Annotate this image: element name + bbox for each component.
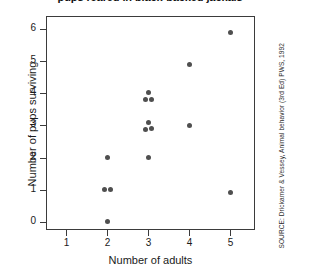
data-point bbox=[149, 126, 154, 131]
data-point bbox=[228, 30, 233, 35]
y-axis-title: Number of pups surviving bbox=[26, 29, 38, 219]
x-axis-tick bbox=[148, 230, 149, 236]
data-point bbox=[143, 97, 148, 102]
data-point bbox=[146, 120, 151, 125]
plot-area bbox=[46, 16, 255, 230]
y-axis-tick bbox=[40, 190, 46, 191]
y-axis-tick bbox=[40, 29, 46, 30]
x-axis-title: Number of adults bbox=[46, 254, 255, 266]
data-point bbox=[146, 155, 151, 160]
x-axis-tick bbox=[107, 230, 108, 236]
x-axis-tick bbox=[189, 230, 190, 236]
y-axis-tick bbox=[40, 222, 46, 223]
data-point bbox=[102, 187, 107, 192]
data-point bbox=[146, 90, 151, 95]
y-axis-tick bbox=[40, 125, 46, 126]
data-point bbox=[108, 187, 113, 192]
data-point bbox=[228, 190, 233, 195]
x-axis-tick bbox=[66, 230, 67, 236]
data-point bbox=[105, 219, 110, 224]
data-point bbox=[149, 97, 154, 102]
data-point bbox=[187, 62, 192, 67]
data-point bbox=[105, 155, 110, 160]
source-credit: SOURCE: Drickamer & Vessey, Animal behav… bbox=[278, 19, 285, 249]
x-axis-tick-label: 5 bbox=[220, 237, 240, 248]
x-axis-tick-label: 2 bbox=[97, 237, 117, 248]
y-axis-tick bbox=[40, 61, 46, 62]
x-axis-tick-label: 4 bbox=[179, 237, 199, 248]
data-point bbox=[187, 123, 192, 128]
x-axis-tick-label: 1 bbox=[56, 237, 76, 248]
scatter-plot-figure: pups reared in black-backed jackals 0123… bbox=[0, 0, 318, 274]
chart-title: pups reared in black-backed jackals bbox=[46, 0, 254, 3]
y-axis-tick bbox=[40, 93, 46, 94]
data-point bbox=[143, 127, 148, 132]
x-axis-tick bbox=[230, 230, 231, 236]
x-axis-tick-label: 3 bbox=[138, 237, 158, 248]
y-axis-tick bbox=[40, 158, 46, 159]
